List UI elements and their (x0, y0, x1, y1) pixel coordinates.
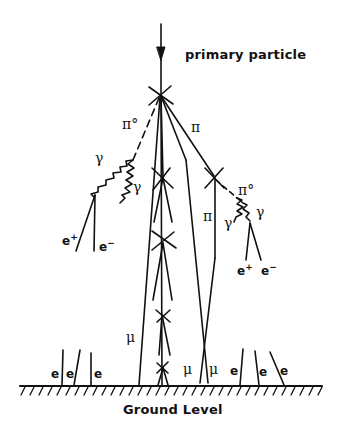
gamma-right-2-label: γ (256, 205, 264, 219)
e-plus-right-track (246, 223, 250, 260)
gamma-left-1-label: γ (95, 151, 103, 165)
e-ground-label-3: e (94, 368, 102, 380)
e-plus-left-label: e+ (62, 233, 78, 247)
e-minus-left-label: e− (99, 239, 115, 253)
e-plus-left-track (76, 195, 95, 251)
pi0-left-label: π° (122, 117, 138, 131)
e-minus-right-track (250, 223, 261, 260)
e-ground-track-2 (74, 350, 80, 385)
pi0-right-track (216, 180, 237, 198)
pi0-right-label: π° (238, 183, 254, 197)
e-ground-track-1 (62, 350, 63, 385)
e-ground-label-5: e (259, 366, 267, 378)
ground-surface (20, 386, 322, 395)
pi-right-track (161, 96, 214, 176)
e-minus-right-label: e− (261, 263, 277, 277)
pi-right-label: π (203, 209, 212, 223)
mu-center-1-label: μ (183, 362, 192, 376)
mu-center-2-label: μ (209, 362, 218, 376)
e-minus-left-track (94, 195, 95, 251)
e-plus-right-label: e+ (237, 263, 253, 277)
ground-level-label: Ground Level (123, 403, 223, 416)
gamma-left-2-label: γ (133, 180, 141, 194)
e-ground-label-2: e (66, 368, 74, 380)
pi-upper-label: π (191, 120, 200, 134)
primary-particle-track (157, 24, 165, 95)
hadron-track-right-2 (186, 160, 208, 383)
e-ground-label-1: e (51, 368, 59, 380)
primary-particle-label: primary particle (185, 48, 306, 61)
vertex-3-icon (152, 231, 176, 300)
e-ground-track-4 (240, 349, 243, 385)
e-ground-label-4: e (230, 365, 238, 377)
vertex-4-icon (156, 310, 170, 355)
mu-left-label: μ (126, 330, 135, 344)
gamma-right-1-label: γ (224, 216, 232, 230)
mu-left-track (139, 97, 160, 385)
e-ground-label-6: e (280, 365, 288, 377)
